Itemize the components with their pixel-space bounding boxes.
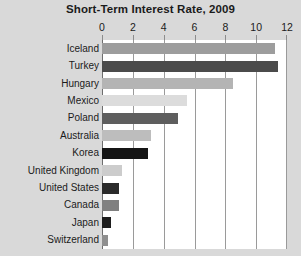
bar-korea bbox=[102, 148, 148, 159]
category-label-mexico: Mexico bbox=[0, 95, 99, 106]
category-label-turkey: Turkey bbox=[0, 60, 99, 71]
category-label-australia: Australia bbox=[0, 130, 99, 141]
category-label-united-kingdom: United Kingdom bbox=[0, 165, 99, 176]
x-tick-label-12: 12 bbox=[281, 21, 293, 33]
category-label-canada: Canada bbox=[0, 199, 99, 210]
category-label-iceland: Iceland bbox=[0, 43, 99, 54]
x-tick-label-6: 6 bbox=[192, 21, 198, 33]
x-tick-label-0: 0 bbox=[99, 21, 105, 33]
bar-canada bbox=[102, 200, 119, 211]
category-label-japan: Japan bbox=[0, 217, 99, 228]
bar-iceland bbox=[102, 43, 275, 54]
bar-australia bbox=[102, 130, 151, 141]
category-label-hungary: Hungary bbox=[0, 78, 99, 89]
category-label-korea: Korea bbox=[0, 147, 99, 158]
category-label-united-states: United States bbox=[0, 182, 99, 193]
bar-united-kingdom bbox=[102, 165, 122, 176]
bar-hungary bbox=[102, 78, 233, 89]
bar-switzerland bbox=[102, 235, 108, 246]
x-tick-label-4: 4 bbox=[161, 21, 167, 33]
bar-poland bbox=[102, 113, 178, 124]
bar-turkey bbox=[102, 61, 278, 72]
chart-figure: Short-Term Interest Rate, 2009 024681012… bbox=[0, 0, 301, 256]
bar-united-states bbox=[102, 183, 119, 194]
x-axis-tick-labels: 024681012 bbox=[102, 21, 287, 36]
bar-japan bbox=[102, 217, 111, 228]
chart-title: Short-Term Interest Rate, 2009 bbox=[0, 3, 301, 15]
x-tick-label-8: 8 bbox=[222, 21, 228, 33]
category-label-switzerland: Switzerland bbox=[0, 234, 99, 245]
bar-mexico bbox=[102, 95, 187, 106]
bar-series bbox=[102, 40, 287, 249]
y-axis-category-labels: IcelandTurkeyHungaryMexicoPolandAustrali… bbox=[0, 40, 99, 249]
x-tick-label-10: 10 bbox=[250, 21, 262, 33]
plot-area bbox=[102, 40, 287, 249]
category-label-poland: Poland bbox=[0, 112, 99, 123]
x-tick-label-2: 2 bbox=[130, 21, 136, 33]
